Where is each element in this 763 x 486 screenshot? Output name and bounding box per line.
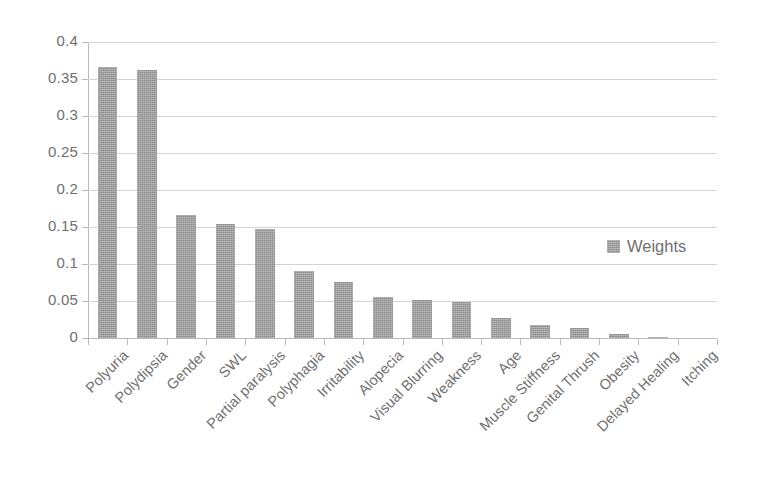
x-axis-tick — [167, 339, 168, 345]
x-axis-category-label: Gender — [164, 347, 210, 393]
y-axis-tick — [82, 79, 88, 80]
legend-swatch-icon — [607, 240, 620, 253]
x-axis-category-label: Age — [494, 347, 524, 377]
y-axis-tick-label: 0.25 — [8, 143, 78, 160]
y-axis-tick — [82, 116, 88, 117]
x-axis-tick — [363, 339, 364, 345]
bar — [530, 325, 550, 338]
x-axis-category-label: SWL — [215, 347, 249, 381]
x-axis-tick — [599, 339, 600, 345]
y-axis-tick-label: 0.2 — [8, 180, 78, 197]
chart-legend: Weights — [607, 237, 686, 256]
x-axis-category-label: Genital Thrush — [523, 347, 602, 426]
x-axis-tick — [717, 339, 718, 345]
bar — [452, 302, 472, 338]
bar — [216, 224, 236, 338]
bar — [373, 297, 393, 338]
x-axis-tick — [245, 339, 246, 345]
bar — [255, 229, 275, 338]
x-axis-tick — [481, 339, 482, 345]
bar — [98, 67, 118, 338]
y-axis-tick-label: 0.35 — [8, 69, 78, 86]
x-axis-category-label: Itching — [679, 347, 721, 389]
y-axis-tick-label: 0.05 — [8, 291, 78, 308]
bar — [334, 282, 354, 338]
bar — [648, 337, 668, 338]
x-axis-tick — [520, 339, 521, 345]
x-axis-tick — [403, 339, 404, 345]
legend-label: Weights — [627, 237, 686, 256]
bar — [609, 334, 629, 338]
x-axis-tick — [285, 339, 286, 345]
x-axis-tick — [638, 339, 639, 345]
x-axis-tick — [442, 339, 443, 345]
y-axis-tick — [82, 301, 88, 302]
bar — [570, 328, 590, 338]
x-axis-tick — [127, 339, 128, 345]
bar — [137, 70, 157, 338]
x-axis-tick — [88, 339, 89, 345]
x-axis-tick — [560, 339, 561, 345]
bar — [412, 300, 432, 338]
y-axis-tick — [82, 227, 88, 228]
y-axis-labels: 0.40.350.30.250.20.150.10.050 — [0, 0, 78, 486]
x-axis-tick — [324, 339, 325, 345]
y-axis-tick-label: 0.15 — [8, 217, 78, 234]
bar-chart: 0.40.350.30.250.20.150.10.050 PolyuriaPo… — [0, 0, 763, 486]
y-axis-tick-label: 0.4 — [8, 32, 78, 49]
y-axis-tick — [82, 264, 88, 265]
x-axis-tick — [678, 339, 679, 345]
y-axis-tick-label: 0.3 — [8, 106, 78, 123]
y-axis-tick-label: 0 — [8, 328, 78, 345]
bar — [294, 271, 314, 338]
bar — [176, 215, 196, 338]
y-axis-tick — [82, 153, 88, 154]
y-axis-tick — [82, 190, 88, 191]
x-axis-labels: PolyuriaPolydipsiaGenderSWLPartial paral… — [88, 347, 763, 486]
bar — [491, 318, 511, 338]
y-axis-tick — [82, 42, 88, 43]
x-axis-tick — [206, 339, 207, 345]
y-axis-tick-label: 0.1 — [8, 254, 78, 271]
bars-layer — [88, 42, 717, 339]
